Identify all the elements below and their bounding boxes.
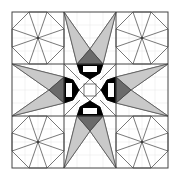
center-diamond: [79, 79, 101, 101]
quilt-block-diagram: Quilt block pattern: [0, 0, 177, 178]
quilt-svg: [0, 0, 177, 178]
